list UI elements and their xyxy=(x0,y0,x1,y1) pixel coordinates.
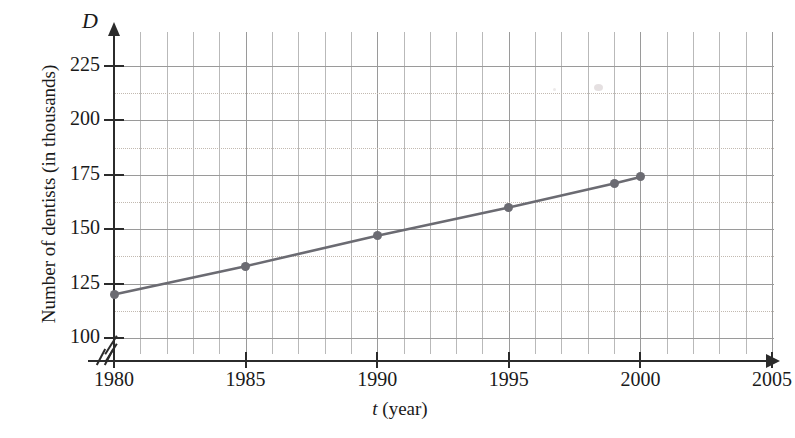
grid-line-vertical xyxy=(509,32,510,354)
y-axis-tick xyxy=(104,119,124,121)
grid-line-vertical xyxy=(167,32,168,354)
plot-area xyxy=(114,32,774,354)
x-axis-arrow-icon xyxy=(766,354,780,368)
scan-artifact xyxy=(594,84,603,91)
x-axis-line xyxy=(88,360,770,362)
grid-line-horizontal xyxy=(114,120,774,121)
grid-line-vertical xyxy=(456,32,457,354)
y-axis-tick-label: 225 xyxy=(44,54,100,74)
grid-line-vertical xyxy=(351,32,352,354)
grid-line-vertical xyxy=(561,32,562,354)
y-axis-title: Number of dentists (in thousands) xyxy=(38,49,60,339)
y-axis-tick xyxy=(104,174,124,176)
grid xyxy=(114,32,774,354)
grid-line-vertical xyxy=(272,32,273,354)
grid-line-horizontal xyxy=(114,93,774,94)
y-axis-tick-label: 150 xyxy=(44,217,100,237)
y-axis-tick xyxy=(104,228,124,230)
y-axis-tick-label: 125 xyxy=(44,272,100,292)
grid-line-vertical xyxy=(614,32,615,354)
grid-line-horizontal xyxy=(114,66,774,67)
x-axis-tick-label: 2000 xyxy=(595,368,685,390)
x-axis-unit: (year) xyxy=(382,398,427,419)
grid-line-horizontal xyxy=(114,284,774,285)
grid-line-vertical xyxy=(772,32,773,354)
x-axis-tick xyxy=(245,352,247,368)
grid-line-vertical xyxy=(246,32,247,354)
y-axis-tick-label: 175 xyxy=(44,163,100,183)
grid-line-vertical xyxy=(140,32,141,354)
grid-line-vertical xyxy=(482,32,483,354)
grid-line-vertical xyxy=(535,32,536,354)
x-axis-symbol: t xyxy=(372,398,377,419)
grid-line-horizontal xyxy=(114,311,774,312)
dentists-line-chart: D Number of dentists (in thousands) t (y… xyxy=(0,0,795,438)
grid-line-vertical xyxy=(377,32,378,354)
grid-line-horizontal xyxy=(114,256,774,257)
scan-artifact xyxy=(553,88,556,91)
x-axis-tick-label: 1985 xyxy=(201,368,291,390)
y-axis-tick xyxy=(104,337,124,339)
grid-line-vertical xyxy=(719,32,720,354)
y-axis-line xyxy=(113,34,115,364)
x-axis-tick xyxy=(376,352,378,368)
grid-line-vertical xyxy=(325,32,326,354)
grid-line-vertical xyxy=(430,32,431,354)
x-axis-tick-label: 1995 xyxy=(464,368,554,390)
grid-line-vertical xyxy=(588,32,589,354)
grid-line-vertical xyxy=(693,32,694,354)
grid-line-vertical xyxy=(298,32,299,354)
x-axis-tick xyxy=(113,352,115,368)
x-axis-tick xyxy=(639,352,641,368)
x-axis-tick-label: 2005 xyxy=(727,368,795,390)
y-axis-symbol-label: D xyxy=(82,8,98,34)
x-axis-title: t (year) xyxy=(300,398,500,420)
grid-line-vertical xyxy=(193,32,194,354)
grid-line-horizontal xyxy=(114,175,774,176)
y-axis-arrow-icon xyxy=(108,22,120,36)
grid-line-vertical xyxy=(640,32,641,354)
grid-line-horizontal xyxy=(114,148,774,149)
y-axis-tick-label: 100 xyxy=(44,326,100,346)
grid-line-vertical xyxy=(746,32,747,354)
grid-line-vertical xyxy=(404,32,405,354)
grid-line-horizontal xyxy=(114,229,774,230)
grid-line-vertical xyxy=(667,32,668,354)
grid-line-horizontal xyxy=(114,338,774,339)
x-axis-tick xyxy=(771,352,773,368)
x-axis-tick xyxy=(508,352,510,368)
x-axis-tick-label: 1990 xyxy=(332,368,422,390)
grid-line-vertical xyxy=(219,32,220,354)
grid-line-horizontal xyxy=(114,202,774,203)
y-axis-tick xyxy=(104,65,124,67)
y-axis-tick xyxy=(104,283,124,285)
y-axis-tick-label: 200 xyxy=(44,108,100,128)
x-axis-tick-label: 1980 xyxy=(69,368,159,390)
